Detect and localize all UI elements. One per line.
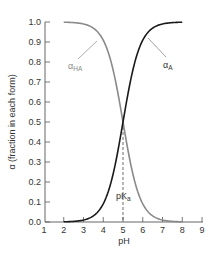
y-tick-label: 0.9	[28, 37, 41, 47]
y-tick-label: 0.1	[28, 197, 41, 207]
x-tick-label: 3	[81, 225, 86, 235]
x-tick-label: 8	[180, 225, 185, 235]
x-tick-label: 1	[41, 225, 46, 235]
x-tick-label: 5	[120, 225, 125, 235]
y-axis-title: α (fraction in each form)	[7, 74, 17, 169]
y-tick-label: 0.6	[28, 97, 41, 107]
alpha-ha-label: αHA	[68, 61, 83, 72]
x-tick-label: 4	[101, 225, 106, 235]
y-tick-label: 0.0	[28, 217, 41, 227]
pka-label: pKa	[116, 191, 131, 202]
x-tick-label: 2	[61, 225, 66, 235]
y-tick-label: 0.4	[28, 137, 41, 147]
y-tick-label: 0.7	[28, 77, 41, 87]
y-ticks: 0.00.10.20.30.40.50.60.70.80.91.0	[28, 17, 50, 227]
y-tick-label: 0.2	[28, 177, 41, 187]
y-tick-label: 0.8	[28, 57, 41, 67]
x-tick-label: 6	[140, 225, 145, 235]
alpha-a-label: αA	[163, 60, 173, 71]
x-axis-title: pH	[118, 236, 130, 246]
chart: 0.00.10.20.30.40.50.60.70.80.91.0 123456…	[0, 0, 218, 257]
y-tick-label: 0.5	[28, 117, 41, 127]
alpha-ha-leader-line	[78, 41, 97, 59]
x-tick-label: 9	[199, 225, 204, 235]
y-tick-label: 0.3	[28, 157, 41, 167]
x-tick-label: 7	[160, 225, 165, 235]
y-tick-label: 1.0	[28, 17, 41, 27]
alpha-a-leader-line	[148, 38, 166, 57]
